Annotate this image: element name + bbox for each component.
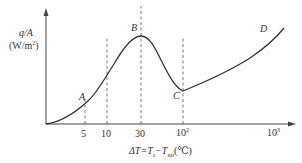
- boiling-curve-line: [46, 28, 284, 124]
- x-axis-arrow-icon: [288, 122, 296, 127]
- x-tick-100: 102: [176, 127, 189, 138]
- y-axis-unit-close: ): [35, 40, 38, 51]
- x-axis-delta: ΔT=T: [129, 145, 153, 156]
- x-tick-1000-base: 10: [267, 127, 277, 138]
- x-axis-unit: (℃): [174, 145, 192, 156]
- x-tick-30: 30: [135, 128, 145, 139]
- x-tick-10: 10: [101, 128, 111, 139]
- chart-canvas: [0, 0, 302, 163]
- y-axis-label-unit: (W/m2): [9, 40, 39, 51]
- point-label-b: B: [131, 22, 137, 33]
- point-label-a: A: [79, 91, 85, 102]
- x-tick-1000: 103: [267, 127, 280, 138]
- y-axis-label-quantity: q/A: [19, 27, 33, 38]
- x-tick-100-base: 10: [176, 127, 186, 138]
- point-label-c: C: [173, 90, 180, 101]
- boiling-curve-chart: q/A (W/m2) 5 10 30 102 103 A B C D ΔT=Ts…: [0, 0, 302, 163]
- x-axis-minus-t: −T: [155, 145, 167, 156]
- x-axis-label: ΔT=Ts−Tsat(℃): [129, 145, 192, 158]
- y-axis-arrow-icon: [44, 8, 49, 16]
- x-tick-100-exp: 2: [186, 127, 189, 133]
- x-tick-5: 5: [81, 128, 86, 139]
- x-tick-1000-exp: 3: [277, 127, 280, 133]
- y-axis-unit-text: (W/m: [9, 40, 32, 51]
- point-label-d: D: [260, 23, 267, 34]
